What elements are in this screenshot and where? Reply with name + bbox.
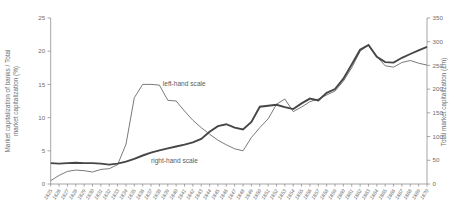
right-axis-title: Total market capitalization (£m) <box>440 58 448 146</box>
right-axis-tick-label: 300 <box>433 38 444 45</box>
left-axis-title-line2: market capitalization (%) <box>12 66 20 136</box>
annotation-left-hand-scale: left-hand scale <box>163 80 206 87</box>
chart-canvas: 0510152025050100150200250300350182518261… <box>0 0 454 221</box>
left-axis-title-line1: Market capitalization of banks / Total <box>4 50 12 153</box>
series-banks-share-line <box>51 45 427 181</box>
right-axis-tick-label: 0 <box>433 180 437 187</box>
left-axis-tick-label: 10 <box>38 114 45 121</box>
series-total-market-cap-line <box>51 45 427 165</box>
right-axis-tick-label: 350 <box>433 14 444 21</box>
left-axis-tick-label: 5 <box>42 147 46 154</box>
left-axis-tick-label: 0 <box>42 180 46 187</box>
right-axis-tick-label: 50 <box>433 156 440 163</box>
left-axis-tick-label: 15 <box>38 81 45 88</box>
x-axis-tick-label: 1870 <box>419 188 430 201</box>
left-axis-tick-label: 20 <box>38 47 45 54</box>
chart-figure: 0510152025050100150200250300350182518261… <box>0 0 454 221</box>
left-axis-tick-label: 25 <box>38 14 45 21</box>
annotation-right-hand-scale: right-hand scale <box>151 157 198 165</box>
